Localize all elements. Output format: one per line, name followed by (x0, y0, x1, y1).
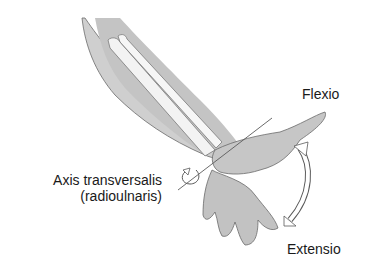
forearm-hand-illustration (0, 0, 382, 272)
extensio-label: Extensio (287, 241, 341, 257)
flexio-label: Flexio (302, 86, 339, 102)
axis-label: Axis transversalis (radioulnaris) (26, 172, 162, 204)
axis-label-line1: Axis transversalis (26, 172, 162, 188)
wrist-motion-diagram: Flexio Axis transversalis (radioulnaris)… (0, 0, 382, 272)
axis-label-line2: (radioulnaris) (26, 188, 162, 204)
